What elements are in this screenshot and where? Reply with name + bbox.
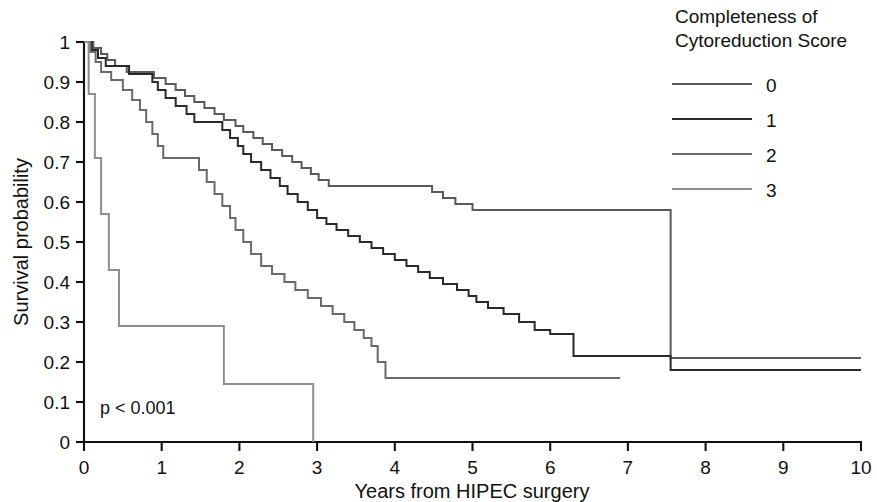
x-tick-label: 0 <box>79 457 90 478</box>
x-tick-label: 3 <box>312 457 323 478</box>
legend-label-1: 1 <box>766 110 777 131</box>
x-axis-title: Years from HIPEC surgery <box>355 480 590 502</box>
x-axis-tick-labels: 012345678910 <box>79 457 872 478</box>
x-tick-label: 8 <box>700 457 711 478</box>
legend-items: 0123 <box>672 75 777 201</box>
km-curves-group <box>84 42 861 442</box>
legend-title-line2: Cytoreduction Score <box>675 30 847 51</box>
y-tick-label: 0.4 <box>44 272 71 293</box>
survival-plot: 00.10.20.30.40.50.60.70.80.91 0123456789… <box>0 0 877 502</box>
y-tick-label: 0 <box>59 432 70 453</box>
legend-title-line1: Completeness of <box>675 6 818 27</box>
y-tick-label: 0.6 <box>44 192 70 213</box>
legend: Completeness of Cytoreduction Score 0123 <box>672 6 847 201</box>
kaplan-meier-figure: 00.10.20.30.40.50.60.70.80.91 0123456789… <box>0 0 877 502</box>
legend-label-3: 3 <box>766 180 777 201</box>
y-tick-label: 0.8 <box>44 112 70 133</box>
x-tick-label: 2 <box>234 457 245 478</box>
y-tick-label: 0.2 <box>44 352 70 373</box>
x-tick-label: 4 <box>390 457 401 478</box>
y-tick-label: 1 <box>59 32 70 53</box>
x-tick-label: 7 <box>623 457 634 478</box>
y-tick-label: 0.7 <box>44 152 70 173</box>
y-axis-ticks <box>76 42 84 442</box>
x-axis-ticks <box>84 442 861 451</box>
y-axis-title: Survival probability <box>10 158 32 326</box>
legend-label-0: 0 <box>766 75 777 96</box>
x-tick-label: 6 <box>545 457 556 478</box>
x-tick-label: 1 <box>156 457 167 478</box>
y-tick-label: 0.1 <box>44 392 70 413</box>
x-tick-label: 10 <box>850 457 871 478</box>
x-tick-label: 9 <box>778 457 789 478</box>
y-tick-label: 0.5 <box>44 232 70 253</box>
y-tick-label: 0.9 <box>44 72 70 93</box>
y-tick-label: 0.3 <box>44 312 70 333</box>
km-curve-score-0 <box>84 42 861 358</box>
p-value-annotation: p < 0.001 <box>100 398 176 418</box>
legend-label-2: 2 <box>766 145 777 166</box>
x-tick-label: 5 <box>467 457 478 478</box>
y-axis-tick-labels: 00.10.20.30.40.50.60.70.80.91 <box>44 32 71 453</box>
